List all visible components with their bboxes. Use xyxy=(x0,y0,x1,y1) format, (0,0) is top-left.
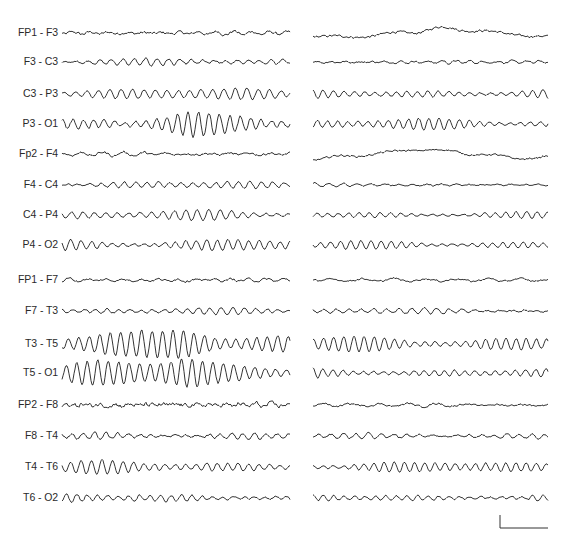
left-trace-t3-t5 xyxy=(62,330,290,358)
right-trace-t3-t5 xyxy=(313,336,548,352)
eeg-figure: FP1 - F3F3 - C3C3 - P3P3 - O1Fp2 - F4F4 … xyxy=(0,0,565,538)
channel-label: F8 - T4 xyxy=(0,429,58,441)
right-trace-f8-t4 xyxy=(313,432,548,439)
left-trace-f7-t3 xyxy=(62,308,290,315)
right-trace-t4-t6 xyxy=(313,462,548,472)
right-trace-t6-o2 xyxy=(313,495,548,501)
left-trace-p4-o2 xyxy=(62,239,290,250)
channel-label: C4 - P4 xyxy=(0,208,58,220)
left-trace-f3-c3 xyxy=(62,58,290,66)
channel-label: P3 - O1 xyxy=(0,117,58,129)
right-trace-c4-p4 xyxy=(313,211,548,218)
channel-label: T6 - O2 xyxy=(0,491,58,503)
channel-label: F3 - C3 xyxy=(0,55,58,67)
eeg-traces xyxy=(0,0,565,538)
channel-label: F4 - C4 xyxy=(0,178,58,190)
channel-label: C3 - P3 xyxy=(0,87,58,99)
left-epoch-traces xyxy=(62,30,290,502)
right-trace-f7-t3 xyxy=(313,308,548,315)
scale-bar xyxy=(500,515,548,528)
left-trace-p3-o1 xyxy=(62,112,290,138)
left-trace-fp2-f4 xyxy=(62,151,290,157)
left-trace-fp1-f7 xyxy=(62,278,290,283)
channel-label: F7 - T3 xyxy=(0,304,58,316)
right-epoch-traces xyxy=(313,26,548,501)
left-trace-t4-t6 xyxy=(62,459,290,474)
right-trace-f4-c4 xyxy=(313,182,548,187)
channel-label: T4 - T6 xyxy=(0,460,58,472)
left-trace-t5-o1 xyxy=(62,359,290,387)
right-trace-t5-o1 xyxy=(313,368,548,379)
right-trace-fp2-f4 xyxy=(313,149,548,160)
left-trace-t6-o2 xyxy=(62,494,290,503)
right-trace-fp1-f3 xyxy=(313,26,548,38)
channel-label: Fp2 - F4 xyxy=(0,147,58,159)
channel-label: T5 - O1 xyxy=(0,366,58,378)
left-trace-f4-c4 xyxy=(62,181,290,189)
right-trace-c3-p3 xyxy=(313,90,548,99)
channel-label: FP2 - F8 xyxy=(0,398,58,410)
right-trace-fp1-f7 xyxy=(313,278,548,283)
right-trace-fp2-f8 xyxy=(313,403,548,408)
channel-label: FP1 - F7 xyxy=(0,273,58,285)
right-trace-p3-o1 xyxy=(313,118,548,130)
left-trace-fp2-f8 xyxy=(62,401,290,408)
channel-label: T3 - T5 xyxy=(0,337,58,349)
right-trace-p4-o2 xyxy=(313,240,548,249)
right-trace-f3-c3 xyxy=(313,60,548,65)
left-trace-f8-t4 xyxy=(62,432,290,440)
left-trace-c3-p3 xyxy=(62,88,290,100)
left-trace-c4-p4 xyxy=(62,209,290,221)
left-trace-fp1-f3 xyxy=(62,30,290,36)
channel-label: P4 - O2 xyxy=(0,238,58,250)
channel-label: FP1 - F3 xyxy=(0,26,58,38)
